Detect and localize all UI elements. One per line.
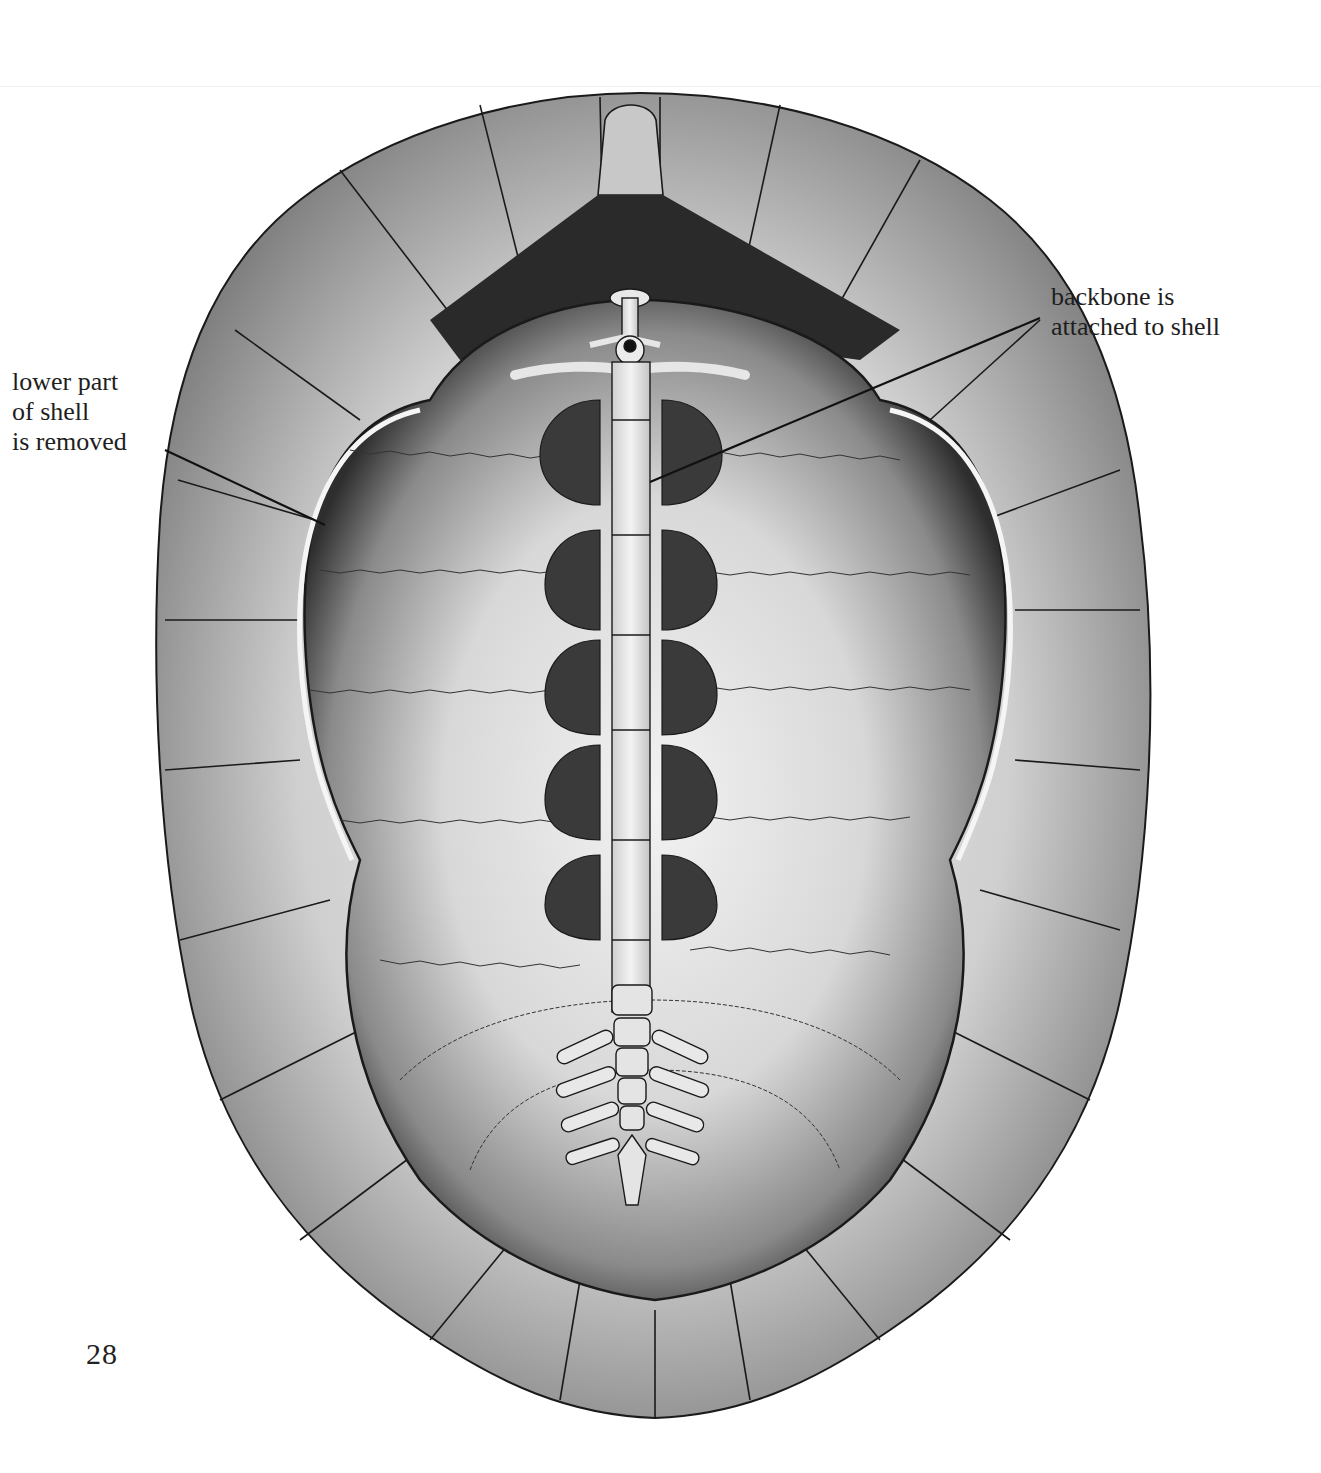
- turtle-shell-illustration: [0, 0, 1321, 1473]
- label-backbone-attached: backbone is attached to shell: [1051, 282, 1220, 342]
- nuchal-scute: [598, 105, 663, 195]
- page-number: 28: [86, 1337, 118, 1371]
- label-lower-shell-removed: lower part of shell is removed: [12, 367, 127, 457]
